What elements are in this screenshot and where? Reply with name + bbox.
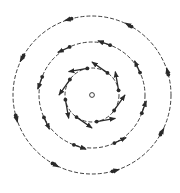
particle-dot-icon xyxy=(14,114,18,118)
particle-dot-icon xyxy=(64,98,68,102)
particle-dot-icon xyxy=(40,75,44,79)
velocity-arrow-icon xyxy=(44,117,49,129)
velocity-arrow-icon xyxy=(92,62,108,73)
velocity-arrow-icon xyxy=(65,100,68,119)
vortex-diagram-canvas xyxy=(0,0,180,193)
particle-dot-icon xyxy=(112,141,116,145)
velocity-arrow-icon xyxy=(135,61,140,73)
particle-dot-icon xyxy=(72,143,76,147)
particle-dot-icon xyxy=(130,25,134,29)
velocity-arrow-icon xyxy=(97,118,116,121)
particle-dot-icon xyxy=(68,45,72,49)
particle-dot-icon xyxy=(111,169,115,173)
velocity-arrow-icon xyxy=(58,47,70,52)
velocity-arrow-icon xyxy=(77,117,93,128)
particle-dot-icon xyxy=(106,71,110,75)
vortex-center-icon xyxy=(90,93,95,98)
particle-dot-icon xyxy=(117,88,121,92)
velocity-arrow-icon xyxy=(114,95,125,111)
velocity-arrow-icon xyxy=(115,72,118,91)
particle-dot-icon xyxy=(42,115,46,119)
particle-dot-icon xyxy=(22,54,26,58)
particle-dot-icon xyxy=(112,109,116,113)
particle-dot-icon xyxy=(159,133,163,137)
velocity-arrow-icon xyxy=(114,138,126,143)
particle-dot-icon xyxy=(95,120,99,124)
particle-dot-icon xyxy=(138,71,142,75)
particle-dot-icon xyxy=(140,111,144,115)
vortex-diagram xyxy=(0,0,180,193)
velocity-arrow-icon xyxy=(59,80,70,96)
particle-dot-icon xyxy=(70,17,74,21)
particle-dot-icon xyxy=(68,78,72,82)
velocity-arrow-icon xyxy=(69,68,88,71)
particle-dot-icon xyxy=(85,67,89,71)
particle-dot-icon xyxy=(108,43,112,47)
particle-dot-icon xyxy=(75,115,79,119)
particle-dot-icon xyxy=(51,162,55,166)
velocity-arrow-icon xyxy=(98,41,110,45)
particle-dot-icon xyxy=(166,73,170,77)
